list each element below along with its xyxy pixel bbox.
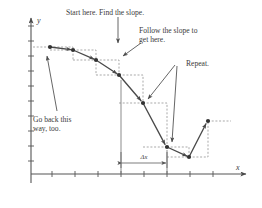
annotation-start: Start here. Find the slope. [66,8,144,17]
x-axis-label: x [235,163,240,172]
annotation-follow-line2: get here. [139,35,165,44]
data-point [94,58,98,62]
y-axis-label: y [36,16,41,25]
data-point [71,48,75,52]
data-point [117,73,121,77]
data-point [187,155,191,159]
delta-x-label: Δx [140,153,148,160]
annotation-goback-line2: way, too. [33,124,61,133]
annotation-repeat: Repeat. [186,59,209,68]
figure-background [0,0,262,208]
euler-method-figure: y x [0,0,262,208]
data-point [141,101,145,105]
data-point [206,119,210,123]
data-point [165,145,169,149]
annotation-goback-line1: Go back this [33,115,71,124]
annotation-follow-line1: Follow the slope to [139,26,198,35]
data-point [48,45,52,49]
